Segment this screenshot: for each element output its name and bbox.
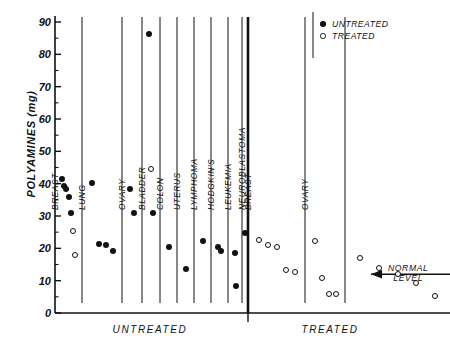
- column-label: UTERUS: [172, 172, 182, 210]
- y-tick-label: 50: [25, 145, 51, 157]
- data-point: [72, 252, 78, 258]
- data-point: [312, 238, 318, 244]
- column-label: LEUKEMIA: [223, 163, 233, 210]
- data-point: [256, 237, 262, 243]
- data-point: [242, 230, 248, 236]
- data-point: [265, 242, 271, 248]
- y-tick-label: 40: [25, 178, 51, 190]
- data-point: [70, 228, 76, 234]
- data-point: [96, 241, 102, 247]
- legend-label-treated: TREATED: [332, 31, 375, 41]
- column-label: LUNG: [77, 185, 87, 210]
- data-point: [89, 180, 95, 186]
- data-point: [183, 266, 189, 272]
- data-point: [146, 31, 152, 37]
- data-point: [232, 250, 238, 256]
- column-label: OVARY: [117, 179, 127, 210]
- y-tick-label: 20: [25, 242, 51, 254]
- legend-item-treated: TREATED: [318, 30, 388, 42]
- data-point: [233, 283, 239, 289]
- legend: UNTREATED TREATED: [318, 18, 388, 42]
- data-point: [127, 186, 133, 192]
- data-point: [376, 265, 382, 271]
- data-point: [326, 291, 332, 297]
- data-point: [292, 269, 298, 275]
- column-label: HODGKIN'S: [206, 159, 216, 210]
- normal-level-line2: LEVEL: [393, 273, 423, 283]
- normal-level-annotation: NORMAL LEVEL: [388, 263, 428, 283]
- y-tick-label: 70: [25, 81, 51, 93]
- y-tick-label: 60: [25, 113, 51, 125]
- y-tick-label: 10: [25, 275, 51, 287]
- column-label: COLON: [155, 177, 165, 210]
- polyamines-scatter-figure: POLYAMINES (mg) 0102030405060708090 BREA…: [0, 0, 450, 340]
- data-point: [432, 293, 438, 299]
- data-point: [218, 248, 224, 254]
- filled-circle-icon: [318, 21, 328, 27]
- data-point: [68, 210, 74, 216]
- data-point: [66, 194, 72, 200]
- column-label: BLADDER: [137, 167, 147, 210]
- data-point: [200, 238, 206, 244]
- y-tick-label: 30: [25, 210, 51, 222]
- data-point: [166, 244, 172, 250]
- data-point: [103, 242, 109, 248]
- data-point: [333, 291, 339, 297]
- data-point: [274, 244, 280, 250]
- data-point: [150, 210, 156, 216]
- y-tick-label: 90: [25, 16, 51, 28]
- column-label: BREAST: [243, 173, 253, 210]
- legend-label-untreated: UNTREATED: [332, 19, 388, 29]
- group-caption-treated: TREATED: [288, 324, 372, 335]
- data-point: [357, 255, 363, 261]
- data-point: [110, 248, 116, 254]
- data-point: [319, 275, 325, 281]
- column-label: OVARY: [300, 179, 310, 210]
- y-tick-label: 0: [25, 307, 51, 319]
- data-point: [283, 267, 289, 273]
- legend-item-untreated: UNTREATED: [318, 18, 388, 30]
- normal-level-line1: NORMAL: [388, 263, 428, 273]
- open-circle-icon: [318, 33, 328, 39]
- column-label: LYMPHOMA: [189, 158, 199, 210]
- y-tick-label: 80: [25, 48, 51, 60]
- group-caption-untreated: UNTREATED: [108, 324, 192, 335]
- left-arrow-icon: [371, 270, 382, 279]
